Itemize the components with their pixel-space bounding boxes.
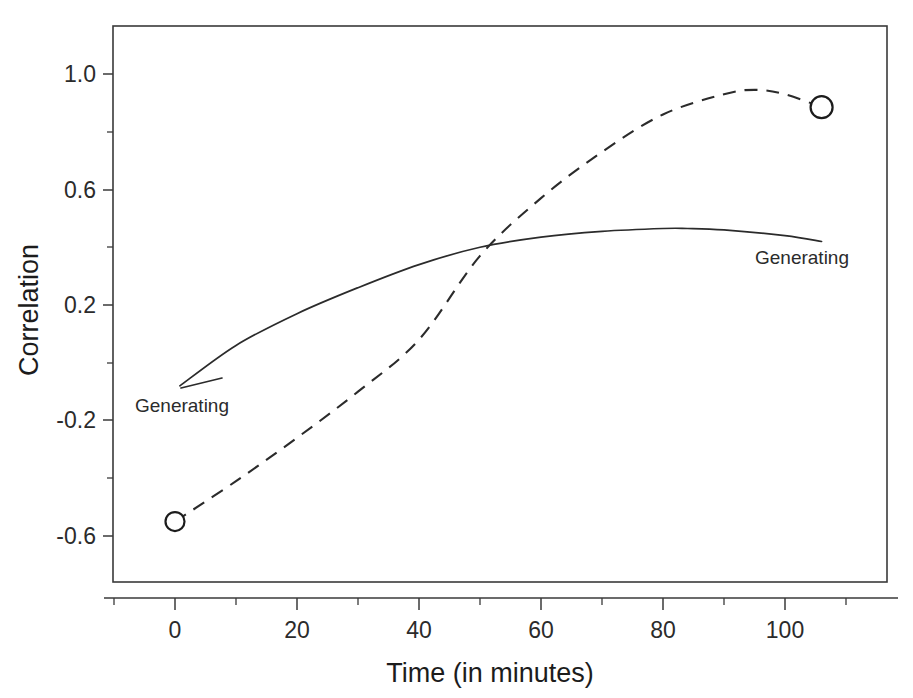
series-line-dashed-generating <box>175 90 822 522</box>
x-tick-label-2: 40 <box>406 617 432 643</box>
x-tick-label-5: 100 <box>766 617 804 643</box>
y-axis-major-ticks <box>103 74 113 536</box>
x-tick-label-4: 80 <box>650 617 676 643</box>
y-axis-tick-labels: 1.0 0.6 0.2 -0.2 -0.6 <box>56 61 96 549</box>
series-endpoint-marker <box>811 96 833 118</box>
series-group <box>175 90 822 522</box>
x-tick-label-0: 0 <box>169 617 182 643</box>
chart-svg: 1.0 0.6 0.2 -0.2 -0.6 <box>0 0 913 698</box>
x-tick-label-1: 20 <box>284 617 310 643</box>
x-tick-label-3: 60 <box>528 617 554 643</box>
plot-frame <box>113 26 887 582</box>
series-label-left-generating: Generating <box>135 395 229 416</box>
y-tick-label-4: -0.6 <box>56 523 96 549</box>
y-tick-label-0: 1.0 <box>64 61 96 87</box>
x-axis-tick-labels: 0 20 40 60 80 100 <box>169 617 805 643</box>
chart-figure: 1.0 0.6 0.2 -0.2 -0.6 <box>0 0 913 698</box>
series-endpoint-marker <box>166 512 185 531</box>
series-label-right-generating: Generating <box>755 247 849 268</box>
y-axis-title: Correlation <box>14 244 44 376</box>
series-line-solid-generating <box>180 228 822 386</box>
y-tick-label-3: -0.2 <box>56 407 96 433</box>
y-tick-label-2: 0.2 <box>64 292 96 318</box>
x-axis-minor-ticks <box>114 598 846 605</box>
x-axis-title: Time (in minutes) <box>386 658 594 688</box>
series-markers <box>166 96 833 531</box>
y-tick-label-1: 0.6 <box>64 177 96 203</box>
